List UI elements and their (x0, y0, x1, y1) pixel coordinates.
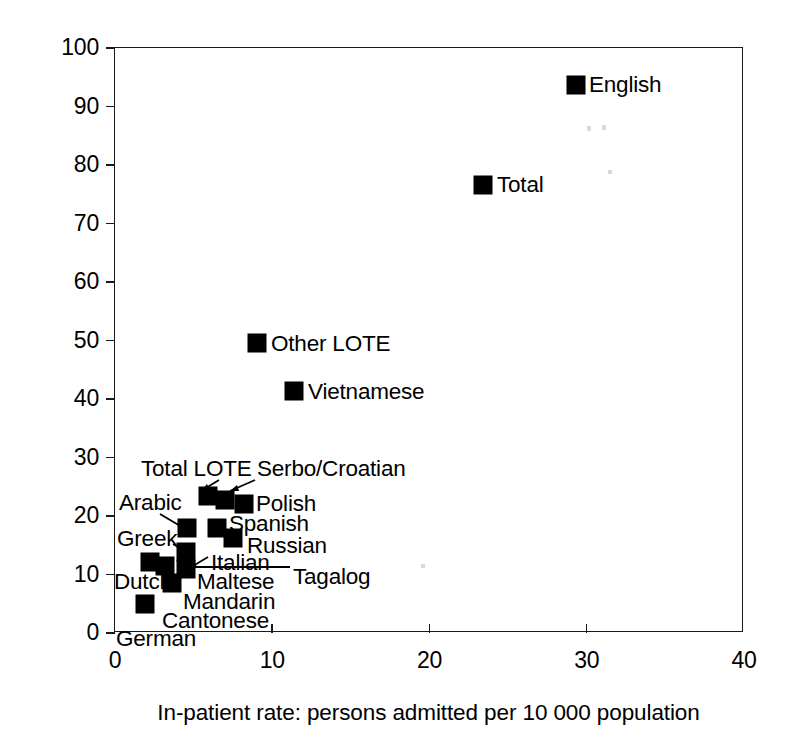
y-tick-mark (106, 398, 115, 400)
y-tick-mark (106, 223, 115, 225)
y-tick-label: 40 (74, 385, 99, 412)
y-tick-label: 10 (74, 561, 99, 588)
y-tick-mark (106, 632, 115, 634)
y-tick-label: 90 (74, 93, 99, 120)
data-point-vietnamese (285, 381, 304, 400)
data-point-other-lote (247, 333, 266, 352)
data-point-english (566, 76, 585, 95)
scan-artifact (421, 564, 425, 568)
scan-artifact (587, 126, 591, 131)
leader-line-tagalog (115, 48, 744, 633)
scatter-plot-figure: Out-patient rate: persons registered per… (0, 0, 787, 741)
y-tick-mark (106, 164, 115, 166)
leader-line-serbo-croatian (115, 48, 744, 633)
leader-line-greek (115, 48, 744, 633)
x-tick-label: 30 (574, 647, 599, 674)
x-tick-label: 10 (260, 647, 285, 674)
y-tick-label: 30 (74, 444, 99, 471)
point-label-serbo-croatian: Serbo/Croatian (257, 456, 406, 481)
y-tick-mark (106, 47, 115, 49)
data-point-cantonese (135, 594, 154, 613)
data-point-total (473, 175, 492, 194)
scan-artifact (608, 170, 612, 174)
y-tick-mark (106, 515, 115, 517)
y-tick-label: 70 (74, 210, 99, 237)
scan-artifact (602, 125, 606, 130)
data-point-total-lote (198, 487, 217, 506)
y-tick-label: 0 (86, 619, 99, 646)
y-tick-mark (106, 340, 115, 342)
point-label-dutch: Dutch (114, 569, 172, 594)
leader-line-total-lote (115, 48, 744, 633)
x-tick-label: 20 (417, 647, 442, 674)
point-label-greek: Greek (117, 526, 177, 551)
y-tick-mark (106, 281, 115, 283)
y-tick-label: 100 (61, 34, 99, 61)
point-label-english: English (589, 72, 661, 97)
x-tick-mark (271, 624, 273, 633)
leader-line-arabic (115, 48, 744, 633)
x-tick-mark (429, 624, 431, 633)
x-tick-label: 40 (731, 647, 756, 674)
point-label-arabic: Arabic (119, 490, 182, 515)
point-label-german: German (116, 626, 196, 651)
point-label-tagalog: Tagalog (293, 564, 370, 589)
leader-line-italian (115, 48, 744, 633)
data-point-arabic (178, 519, 197, 538)
x-tick-label: 0 (109, 647, 122, 674)
y-tick-label: 20 (74, 502, 99, 529)
x-axis-title: In-patient rate: persons admitted per 10… (114, 700, 743, 726)
y-tick-label: 50 (74, 327, 99, 354)
y-tick-label: 80 (74, 151, 99, 178)
point-label-total-lote: Total LOTE (141, 456, 252, 481)
point-label-total: Total (497, 172, 544, 197)
x-tick-mark (586, 624, 588, 633)
point-label-vietnamese: Vietnamese (308, 379, 424, 404)
y-tick-mark (106, 457, 115, 459)
point-label-other-lote: Other LOTE (271, 331, 390, 356)
y-tick-label: 60 (74, 268, 99, 295)
y-tick-mark (106, 106, 115, 108)
data-point-serbo-croatian (216, 491, 235, 510)
plot-area: 0102030405060708090100 010203040 English… (114, 47, 743, 632)
